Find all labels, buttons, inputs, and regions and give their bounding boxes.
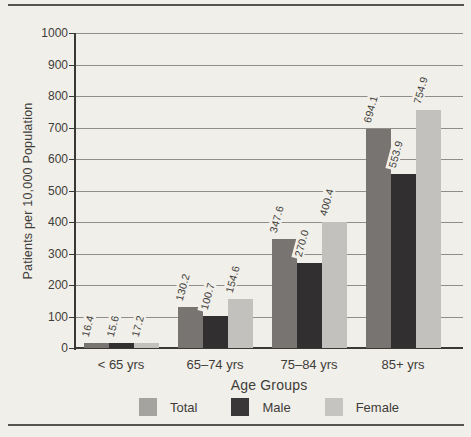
legend: TotalMaleFemale (139, 398, 399, 416)
legend-label-male: Male (262, 400, 290, 415)
y-tick-label-900: 900 (28, 58, 68, 72)
bar-female-group4 (416, 110, 441, 348)
gridline-700 (75, 128, 463, 129)
y-axis-line (74, 33, 76, 350)
legend-swatch-male (231, 398, 249, 416)
y-tick-label-200: 200 (28, 278, 68, 292)
figure: Patients per 10,000 Population 100090080… (0, 0, 471, 437)
gridline-1000 (75, 33, 463, 34)
bar-female-group2 (228, 299, 253, 348)
bar-value-total-group2: 130.2 (172, 270, 192, 304)
y-tick-label-700: 700 (28, 121, 68, 135)
bar-value-female-group4: 754.9 (410, 73, 430, 107)
legend-swatch-female (325, 398, 343, 416)
legend-item-male: Male (231, 398, 290, 416)
bar-male-group3 (297, 263, 322, 348)
bottom-rule (8, 424, 464, 426)
x-axis-title: Age Groups (75, 377, 463, 393)
bar-total-group1 (84, 343, 109, 348)
legend-item-female: Female (325, 398, 399, 416)
gridline-800 (75, 96, 463, 97)
y-tick-label-300: 300 (28, 247, 68, 261)
bar-female-group1 (134, 343, 159, 348)
legend-item-total: Total (139, 398, 197, 416)
bar-value-total-group3: 347.6 (266, 202, 286, 236)
legend-label-total: Total (170, 400, 197, 415)
y-tick-label-600: 600 (28, 152, 68, 166)
bar-total-group2 (178, 307, 203, 348)
bar-female-group3 (322, 222, 347, 348)
gridline-600 (75, 159, 463, 160)
category-label-4: 85+ yrs (348, 357, 458, 372)
bar-male-group2 (203, 316, 228, 348)
y-tick-label-800: 800 (28, 89, 68, 103)
y-tick-label-0: 0 (28, 341, 68, 355)
bar-male-group4 (391, 174, 416, 348)
y-tick-label-1000: 1000 (28, 26, 68, 40)
y-tick-label-100: 100 (28, 310, 68, 324)
y-tick-label-500: 500 (28, 184, 68, 198)
top-rule (8, 4, 464, 6)
legend-swatch-total (139, 398, 157, 416)
y-tick-label-400: 400 (28, 215, 68, 229)
bar-value-female-group2: 154.6 (222, 262, 242, 296)
bar-male-group1 (109, 343, 134, 348)
gridline-900 (75, 65, 463, 66)
legend-label-female: Female (356, 400, 399, 415)
bar-value-total-group4: 694.1 (360, 92, 380, 126)
